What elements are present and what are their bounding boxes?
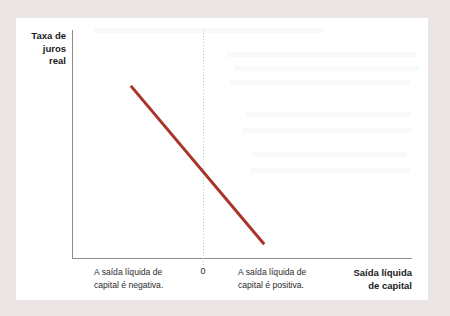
plot-area: Taxa de juros real 0 A saída líquida de … bbox=[16, 18, 428, 300]
y-axis-title: Taxa de juros real bbox=[16, 30, 66, 68]
net-capital-outflow-curve bbox=[16, 18, 428, 300]
nco-curve-line bbox=[131, 86, 264, 244]
x-axis-title: Saída líquida de capital bbox=[296, 266, 412, 292]
figure-card: Taxa de juros real 0 A saída líquida de … bbox=[16, 18, 428, 300]
negative-region-label: A saída líquida de capital é negativa. bbox=[94, 266, 204, 292]
